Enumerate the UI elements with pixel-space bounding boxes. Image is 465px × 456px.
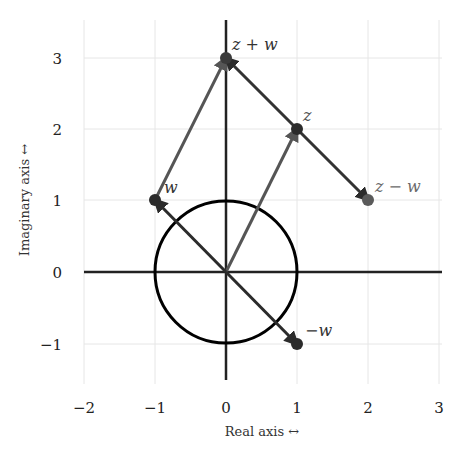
point-z-minus-w bbox=[362, 194, 374, 206]
label-w: w bbox=[164, 178, 178, 197]
label-z-plus-w: z + w bbox=[231, 35, 278, 54]
label-neg-w: −w bbox=[305, 321, 332, 340]
y-tick-1: 1 bbox=[52, 192, 62, 210]
plot-svg: z + w z w z − w −w 3 2 1 0 −1 −2 −1 0 1 … bbox=[0, 0, 465, 456]
y-tick-0: 0 bbox=[52, 264, 62, 282]
point-neg-w bbox=[291, 338, 303, 350]
y-tick-neg1: −1 bbox=[40, 336, 62, 354]
x-tick-0: 0 bbox=[221, 399, 231, 417]
label-z-minus-w: z − w bbox=[374, 177, 421, 196]
y-axis-title: Imaginary axis ↔ bbox=[17, 144, 32, 257]
complex-plane-diagram: z + w z w z − w −w 3 2 1 0 −1 −2 −1 0 1 … bbox=[0, 0, 465, 456]
vector-z-to-z-minus-w bbox=[297, 129, 368, 200]
x-tick-3: 3 bbox=[434, 399, 444, 417]
x-tick-neg1: −1 bbox=[144, 399, 166, 417]
x-axis-title: Real axis ↔ bbox=[225, 424, 300, 439]
x-tick-1: 1 bbox=[292, 399, 302, 417]
point-z-plus-w bbox=[220, 52, 232, 64]
y-tick-2: 2 bbox=[52, 121, 62, 139]
label-z: z bbox=[302, 106, 312, 125]
x-tick-2: 2 bbox=[363, 399, 373, 417]
y-tick-3: 3 bbox=[52, 50, 62, 68]
grid bbox=[84, 20, 442, 384]
vector-z-to-z-plus-w bbox=[226, 58, 297, 129]
point-z bbox=[291, 123, 303, 135]
x-tick-neg2: −2 bbox=[73, 399, 95, 417]
point-w bbox=[149, 194, 161, 206]
